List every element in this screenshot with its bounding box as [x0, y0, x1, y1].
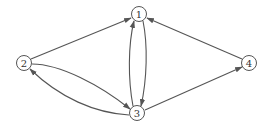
node-3: 3	[130, 106, 145, 121]
node-1: 1	[132, 7, 147, 22]
edge-4-to-1	[147, 18, 242, 59]
edge-2-to-3	[32, 64, 130, 109]
edge-1-to-3	[141, 21, 146, 106]
edge-3-to-4	[145, 67, 242, 110]
edge-3-to-1	[129, 21, 134, 106]
node-label: 2	[21, 58, 27, 69]
node-2: 2	[17, 56, 32, 71]
edge-3-to-2	[30, 69, 129, 115]
graph-diagram: 1 2 3 4	[0, 0, 269, 127]
node-label: 3	[134, 108, 140, 119]
node-label: 1	[136, 9, 142, 20]
node-label: 4	[246, 58, 252, 69]
node-4: 4	[242, 56, 257, 71]
edge-2-to-1	[31, 18, 131, 59]
